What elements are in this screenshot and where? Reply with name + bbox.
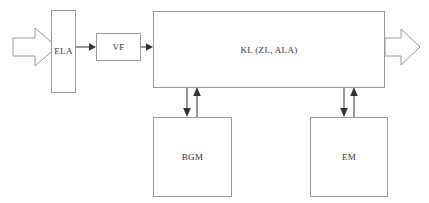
block-em[interactable]: EM bbox=[310, 117, 388, 197]
block-kl[interactable]: KL (ZL, ALA) bbox=[153, 11, 385, 88]
block-bgm[interactable]: BGM bbox=[153, 117, 232, 197]
block-vf[interactable]: VF bbox=[96, 33, 141, 61]
output-block-arrow-icon bbox=[385, 29, 420, 65]
block-kl-label: KL (ZL, ALA) bbox=[240, 45, 297, 55]
block-em-label: EM bbox=[342, 153, 356, 162]
arrow-kl-to-em-head bbox=[340, 108, 348, 117]
block-bgm-label: BGM bbox=[182, 153, 203, 162]
arrow-em-to-kl-head bbox=[350, 87, 358, 96]
arrow-kl-to-bgm-head bbox=[183, 108, 191, 117]
block-vf-label: VF bbox=[112, 43, 124, 52]
arrow-ela-to-vf-head bbox=[89, 43, 96, 51]
arrow-vf-to-kl-head bbox=[146, 43, 153, 51]
block-ela-label: ELA bbox=[54, 47, 72, 56]
diagram-canvas: ELA VF KL (ZL, ALA) BGM EM bbox=[0, 0, 429, 203]
block-ela[interactable]: ELA bbox=[51, 10, 76, 93]
arrow-bgm-to-kl-head bbox=[193, 87, 201, 96]
